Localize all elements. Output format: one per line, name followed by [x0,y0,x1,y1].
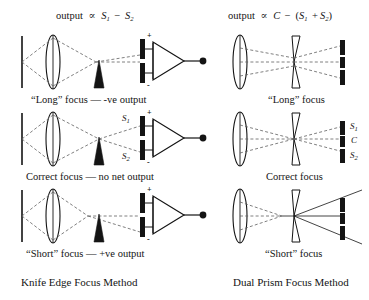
photodetector-bar-s1 [340,121,345,135]
photodetector-bar-c [340,57,345,68]
output-terminal [200,212,207,219]
dual-prism-row-long [233,35,345,89]
converging-lens [46,112,60,166]
converging-lens [46,189,60,243]
light-ray-bundle [22,38,140,86]
light-ray-bundle [22,192,140,240]
photodetector-bar-lower [140,217,145,237]
amplifier-leads [145,43,153,79]
caption-left-row-correct: Correct focus — no net output [26,172,154,183]
detector-label-s1-left: S1 [122,114,130,124]
photodetector-bar-s1 [340,40,345,55]
photodetector-bar-c [340,213,345,224]
caption-right-row-correct: Correct focus [266,172,323,183]
knife-edge-row-short [22,189,206,243]
amplifier-plus-sign-row1: + [147,32,152,40]
caption-left-row-short: “Short” focus — +ve output [26,249,144,260]
photodetector-bar-upper [140,193,145,213]
amplifier-plus-sign-row3: + [147,186,152,194]
converging-lens [46,35,60,89]
left-column-title: Knife Edge Focus Method [21,277,137,288]
photodetector-bar-upper [140,116,145,136]
light-ray-bundle [240,125,340,153]
detector-label-c-right: C [351,136,357,146]
detector-label-s2-left: S2 [122,152,130,162]
amplifier-leads [145,197,153,233]
photodetector-bar-s2 [340,226,345,240]
differential-amplifier [153,42,184,80]
caption-right-row-short: “Short” focus [265,249,322,260]
amplifier-minus-sign-row2: - [147,159,150,167]
knife-edge-row-long [22,35,206,89]
differential-amplifier [153,119,184,157]
photodetector-bar-s2 [340,149,345,163]
photodetector-bar-upper [140,39,145,59]
amplifier-plus-sign-row2: + [147,109,152,117]
knife-edge-prism [94,60,104,88]
amplifier-minus-sign-row1: - [147,82,150,90]
photodetector-bar-s1 [340,198,345,212]
photodetector-bar-s2 [340,70,345,85]
knife-edge-row-correct [22,112,206,166]
dual-prism-row-correct [233,112,345,166]
differential-amplifier [153,196,184,234]
detector-label-s2-right: S2 [350,151,358,161]
right-column-title: Dual Prism Focus Method [233,277,349,288]
caption-right-row-long: “Long” focus [268,95,325,106]
photodetector-bar-lower [140,63,145,83]
detector-label-s1-right: S1 [350,122,358,132]
output-terminal [200,58,207,65]
focus-method-figure: output ∝ S1 − S2 output ∝ C − (S1 +S2) [0,0,369,300]
output-terminal [200,135,207,142]
caption-left-row-long: “Long” focus — -ve output [31,95,146,106]
dual-prism-row-short [233,189,362,244]
photodetector-bar-c [340,136,345,147]
photodetector-bar-lower [140,140,145,160]
amplifier-leads [145,120,153,156]
amplifier-minus-sign-row3: - [147,236,150,244]
light-ray-bundle [240,46,340,78]
